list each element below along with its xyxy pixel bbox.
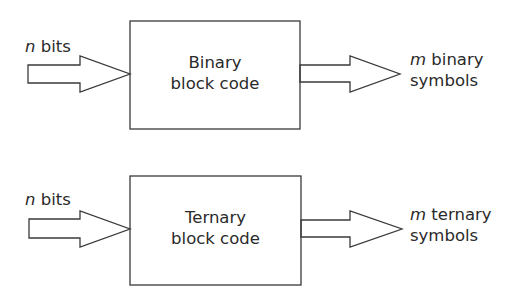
input-text: bits <box>35 37 70 56</box>
input-arrow-ternary <box>29 211 130 247</box>
ternary-block-label: Ternary block code <box>130 207 301 249</box>
block-line2: block code <box>130 73 300 94</box>
output-arrow-ternary <box>301 211 402 247</box>
input-arrow-binary <box>28 56 130 92</box>
diagram-canvas <box>0 0 513 302</box>
output-var: m <box>410 50 426 69</box>
output-line1: ternary <box>426 205 491 224</box>
output-line1: binary <box>426 50 483 69</box>
output-arrow-binary <box>300 56 400 92</box>
input-label-binary: n bits <box>25 37 71 57</box>
input-text: bits <box>35 190 70 209</box>
output-label-ternary: m ternary symbols <box>410 205 492 246</box>
output-var: m <box>410 205 426 224</box>
input-var: n <box>25 37 35 56</box>
output-line2: symbols <box>410 71 484 91</box>
block-line1: Binary <box>130 52 300 73</box>
input-label-ternary: n bits <box>25 190 71 210</box>
block-line1: Ternary <box>130 207 301 228</box>
input-var: n <box>25 190 35 209</box>
output-label-binary: m binary symbols <box>410 50 484 91</box>
output-line2: symbols <box>410 226 492 246</box>
block-line2: block code <box>130 228 301 249</box>
binary-block-label: Binary block code <box>130 52 300 94</box>
